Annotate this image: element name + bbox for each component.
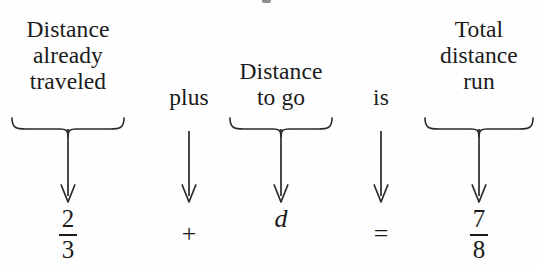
phrase-label-total-distance-run: Total distance run bbox=[420, 16, 538, 94]
word-equation-diagram: Distance already traveled 2 3 plus bbox=[0, 0, 538, 269]
column-distance-to-go: Distance to go d bbox=[225, 0, 337, 269]
down-arrow-is bbox=[348, 130, 414, 204]
fraction-denominator: 8 bbox=[470, 237, 489, 263]
fraction: 2 3 bbox=[59, 206, 78, 263]
fraction-denominator: 3 bbox=[59, 237, 78, 263]
fraction-numerator: 7 bbox=[470, 206, 489, 232]
down-arrow-distance-to-go bbox=[225, 128, 337, 204]
phrase-line: Distance bbox=[225, 58, 337, 84]
phrase-line: Distance bbox=[2, 16, 134, 42]
fraction-numerator: 2 bbox=[59, 206, 78, 232]
fraction: 7 8 bbox=[470, 206, 489, 263]
phrase-line: distance bbox=[420, 42, 538, 68]
down-arrow-total-distance-run bbox=[420, 128, 538, 204]
phrase-line: is bbox=[348, 84, 414, 110]
phrase-label-distance-to-go: Distance to go bbox=[225, 58, 337, 110]
term-fraction-seven-eighths: 7 8 bbox=[420, 206, 538, 263]
term-operator-plus: + bbox=[150, 221, 228, 247]
phrase-line: already bbox=[2, 42, 134, 68]
down-arrow-distance-traveled bbox=[2, 128, 134, 204]
down-arrow-plus bbox=[150, 130, 228, 204]
phrase-line: run bbox=[420, 68, 538, 94]
variable-d: d bbox=[275, 204, 288, 233]
phrase-line: traveled bbox=[2, 68, 134, 94]
column-plus: plus + bbox=[150, 0, 228, 269]
phrase-line: to go bbox=[225, 84, 337, 110]
term-variable-d: d bbox=[225, 206, 337, 232]
phrase-line: Total bbox=[420, 16, 538, 42]
term-operator-equals: = bbox=[348, 221, 414, 247]
column-distance-traveled: Distance already traveled 2 3 bbox=[2, 0, 134, 269]
column-total-distance-run: Total distance run 7 8 bbox=[420, 0, 538, 269]
phrase-label-distance-traveled: Distance already traveled bbox=[2, 16, 134, 94]
column-is: is = bbox=[348, 0, 414, 269]
connector-label-plus: plus bbox=[150, 84, 228, 110]
term-fraction-two-thirds: 2 3 bbox=[2, 206, 134, 263]
connector-label-is: is bbox=[348, 84, 414, 110]
phrase-line: plus bbox=[150, 84, 228, 110]
